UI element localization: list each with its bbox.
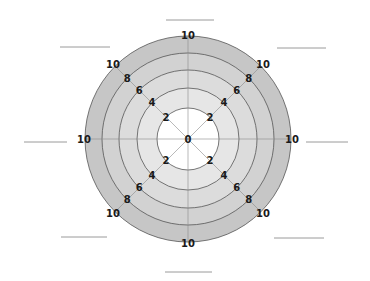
tick-label-2: 2 (206, 155, 213, 166)
tick-label-2: 2 (163, 112, 170, 123)
tick-label-4: 4 (221, 170, 228, 181)
tick-label-10: 10 (77, 134, 91, 145)
tick-label-10: 10 (106, 208, 120, 219)
tick-label-8: 8 (124, 194, 131, 205)
tick-label-8: 8 (124, 73, 131, 84)
tick-label-2: 2 (163, 155, 170, 166)
tick-label-4: 4 (221, 97, 228, 108)
tick-label-10: 10 (285, 134, 299, 145)
tick-label-6: 6 (136, 182, 143, 193)
tick-label-6: 6 (233, 182, 240, 193)
radar-chart: 010246810102468101024681010246810 (0, 0, 370, 281)
tick-label-10: 10 (106, 59, 120, 70)
tick-label-8: 8 (245, 73, 252, 84)
tick-label-8: 8 (245, 194, 252, 205)
tick-label-4: 4 (148, 170, 155, 181)
tick-label-10: 10 (181, 238, 195, 249)
tick-label-6: 6 (233, 85, 240, 96)
tick-label-10: 10 (256, 59, 270, 70)
tick-label-4: 4 (148, 97, 155, 108)
tick-label-2: 2 (206, 112, 213, 123)
tick-label-10: 10 (181, 30, 195, 41)
tick-label-center: 0 (185, 134, 192, 145)
tick-label-6: 6 (136, 85, 143, 96)
tick-label-10: 10 (256, 208, 270, 219)
